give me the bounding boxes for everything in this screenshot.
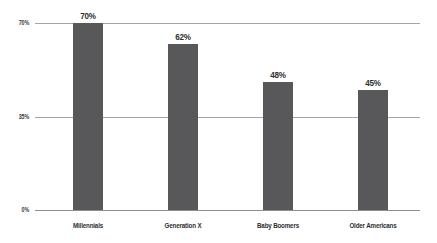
bar-older-americans[interactable] bbox=[358, 90, 388, 210]
bar-value-baby-boomers: 48% bbox=[253, 70, 304, 80]
plot-area: 70% 35% 0% 70% Millennials 62% Generatio… bbox=[0, 0, 437, 243]
bar-millennials[interactable] bbox=[73, 23, 103, 210]
category-label-generation-x: Generation X bbox=[137, 222, 228, 230]
bar-baby-boomers[interactable] bbox=[263, 82, 293, 210]
bar-value-older-americans: 45% bbox=[348, 78, 399, 88]
axis-baseline bbox=[35, 210, 420, 211]
y-tick-label-70: 70% bbox=[6, 20, 29, 27]
bar-value-generation-x: 62% bbox=[158, 32, 209, 42]
bar-generation-x[interactable] bbox=[168, 44, 198, 210]
bar-chart: 70% 35% 0% 70% Millennials 62% Generatio… bbox=[0, 0, 437, 243]
bar-value-millennials: 70% bbox=[63, 11, 114, 21]
y-tick-label-0: 0% bbox=[6, 207, 29, 214]
category-label-older-americans: Older Americans bbox=[327, 222, 418, 230]
y-tick-label-35: 35% bbox=[6, 114, 29, 121]
category-label-millennials: Millennials bbox=[42, 222, 133, 230]
category-label-baby-boomers: Baby Boomers bbox=[232, 222, 323, 230]
